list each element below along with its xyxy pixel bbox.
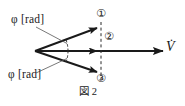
- angle-arc-lower: [66, 51, 68, 62]
- figure-caption: 図 2: [79, 87, 97, 98]
- vector-label-2: ②: [104, 31, 114, 42]
- figure-container: φ [rad] φ [rad] ① ② ③ V̇ 図 2: [0, 0, 185, 106]
- vector-label-3: ③: [96, 73, 106, 84]
- resultant-vector-label: V̇: [166, 40, 175, 54]
- vector-label-1: ①: [96, 8, 106, 19]
- phi-label-lower: φ [rad]: [8, 69, 41, 81]
- angle-arc-upper: [66, 40, 68, 51]
- phi-label-upper: φ [rad]: [11, 14, 44, 26]
- leader-line-upper: [36, 27, 67, 44]
